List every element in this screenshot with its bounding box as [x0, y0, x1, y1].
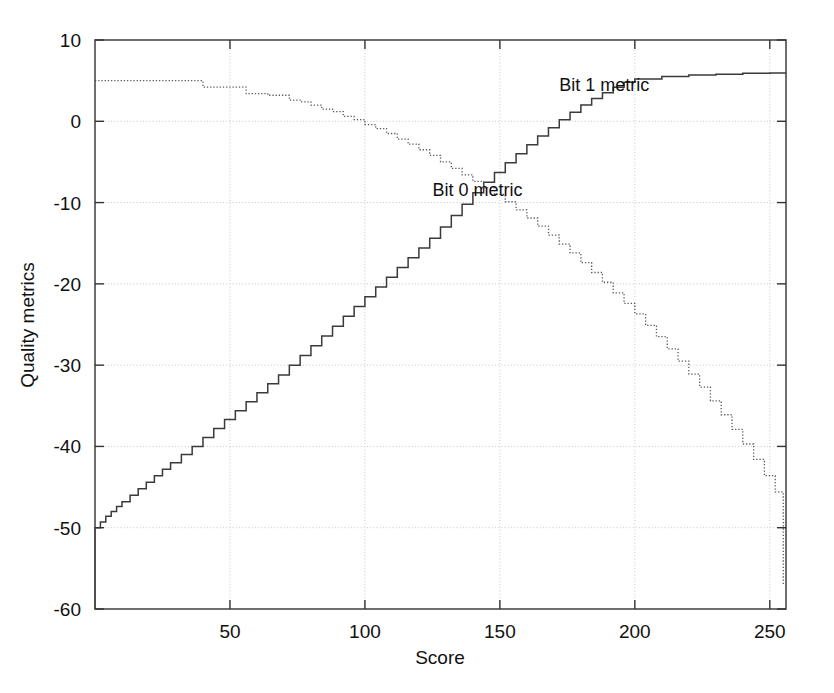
x-tick-label: 250: [754, 621, 786, 642]
figure-background: [0, 0, 834, 693]
x-axis-title: Score: [415, 647, 465, 668]
x-tick-label: 100: [349, 621, 381, 642]
figure-container: 50100150200250100-10-20-30-40-50-60 Bit …: [0, 0, 834, 693]
y-tick-label: 0: [70, 111, 81, 132]
x-tick-label: 50: [219, 621, 240, 642]
y-tick-label: -30: [54, 355, 81, 376]
x-tick-label: 150: [484, 621, 516, 642]
y-tick-label: -50: [54, 518, 81, 539]
y-axis-title: Quality metrics: [17, 262, 38, 388]
y-tick-label: 10: [60, 30, 81, 51]
series-label-bit-1-metric: Bit 1 metric: [559, 75, 649, 95]
y-tick-label: -20: [54, 274, 81, 295]
x-tick-label: 200: [619, 621, 651, 642]
y-tick-label: -60: [54, 599, 81, 620]
series-label-bit-0-metric: Bit 0 metric: [432, 180, 522, 200]
y-tick-label: -40: [54, 436, 81, 457]
y-tick-label: -10: [54, 193, 81, 214]
quality-metrics-chart: 50100150200250100-10-20-30-40-50-60 Bit …: [0, 0, 834, 693]
